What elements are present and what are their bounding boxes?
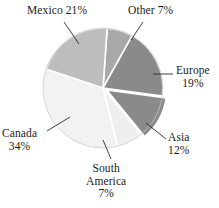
slice-label-other-text: Other 7% [128, 4, 173, 16]
slice-label-canada-name: Canada [2, 127, 37, 140]
slice-label-asia-value: 12% [168, 144, 189, 157]
slice-label-canada-value: 34% [2, 140, 37, 153]
pie-slices [43, 28, 166, 148]
leader-line-other [131, 22, 143, 40]
pie-chart-figure: Mexico 21% Other 7% Europe 19% Asia 12% … [0, 0, 219, 208]
slice-label-asia: Asia 12% [168, 131, 189, 156]
slice-label-canada: Canada 34% [2, 127, 37, 152]
slice-label-south-america-name-2: America [86, 175, 126, 188]
slice-label-europe-name: Europe [176, 64, 210, 77]
slice-label-europe: Europe 19% [176, 64, 210, 89]
slice-label-other: Other 7% [128, 4, 173, 17]
slice-label-asia-name: Asia [168, 131, 189, 144]
slice-label-mexico: Mexico 21% [27, 4, 87, 17]
slice-label-europe-value: 19% [176, 77, 210, 90]
slice-label-south-america-value: 7% [86, 187, 126, 200]
slice-label-south-america-name-1: South [86, 162, 126, 175]
slice-label-mexico-text: Mexico 21% [27, 4, 87, 16]
slice-label-south-america: South America 7% [86, 162, 126, 200]
